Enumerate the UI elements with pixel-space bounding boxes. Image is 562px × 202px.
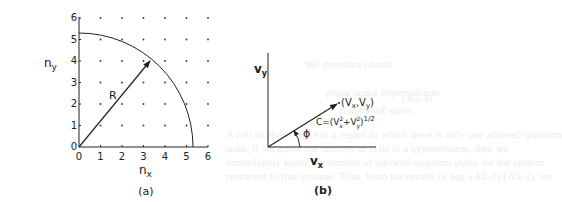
point-label: (Vx,Vy) <box>341 97 374 110</box>
y-tick-label: 5 <box>71 34 77 45</box>
panel-a: 0 1 2 3 4 5 6 0 1 2 3 4 5 6 <box>44 12 211 198</box>
quarter-circle-arc <box>79 33 193 147</box>
magnitude-label: C=(V2x+V2y)1/2 <box>316 115 375 130</box>
y-tick-label: 2 <box>71 98 77 109</box>
lattice-points <box>100 17 209 126</box>
radius-vector-arrow <box>79 61 150 147</box>
x-tick-label: 5 <box>183 151 189 162</box>
vx-axis-label: vx <box>310 154 324 170</box>
y-tick-label: 3 <box>71 77 77 88</box>
radius-label: R <box>109 89 117 102</box>
angle-label-phi: ϕ <box>303 127 310 140</box>
vy-axis-label: vy <box>254 62 268 78</box>
x-tick-label: 6 <box>205 151 211 162</box>
x-tick-label: 0 <box>76 151 82 162</box>
x-tick-labels: 0 1 2 3 4 5 6 <box>76 151 211 162</box>
y-tick-labels: 0 1 2 3 4 5 6 <box>71 12 77 152</box>
y-tick-label: 6 <box>71 12 77 23</box>
panel-b-caption: (b) <box>314 184 332 197</box>
y-tick-label: 0 <box>71 141 77 152</box>
x-axis-label: nx <box>139 163 153 179</box>
panel-a-caption: (a) <box>138 185 153 198</box>
y-axis-label: ny <box>44 56 58 72</box>
panel-b: ϕ (Vx,Vy) C=(V2x+V2y)1/2 vx vy (b) <box>254 53 376 197</box>
x-tick-label: 1 <box>97 151 103 162</box>
x-tick-label: 3 <box>140 151 146 162</box>
y-tick-label: 4 <box>71 55 77 66</box>
velocity-point <box>338 102 340 104</box>
x-tick-label: 2 <box>119 151 125 162</box>
y-tick-label: 1 <box>71 120 77 131</box>
x-tick-label: 4 <box>162 151 168 162</box>
angle-arc <box>294 131 300 147</box>
